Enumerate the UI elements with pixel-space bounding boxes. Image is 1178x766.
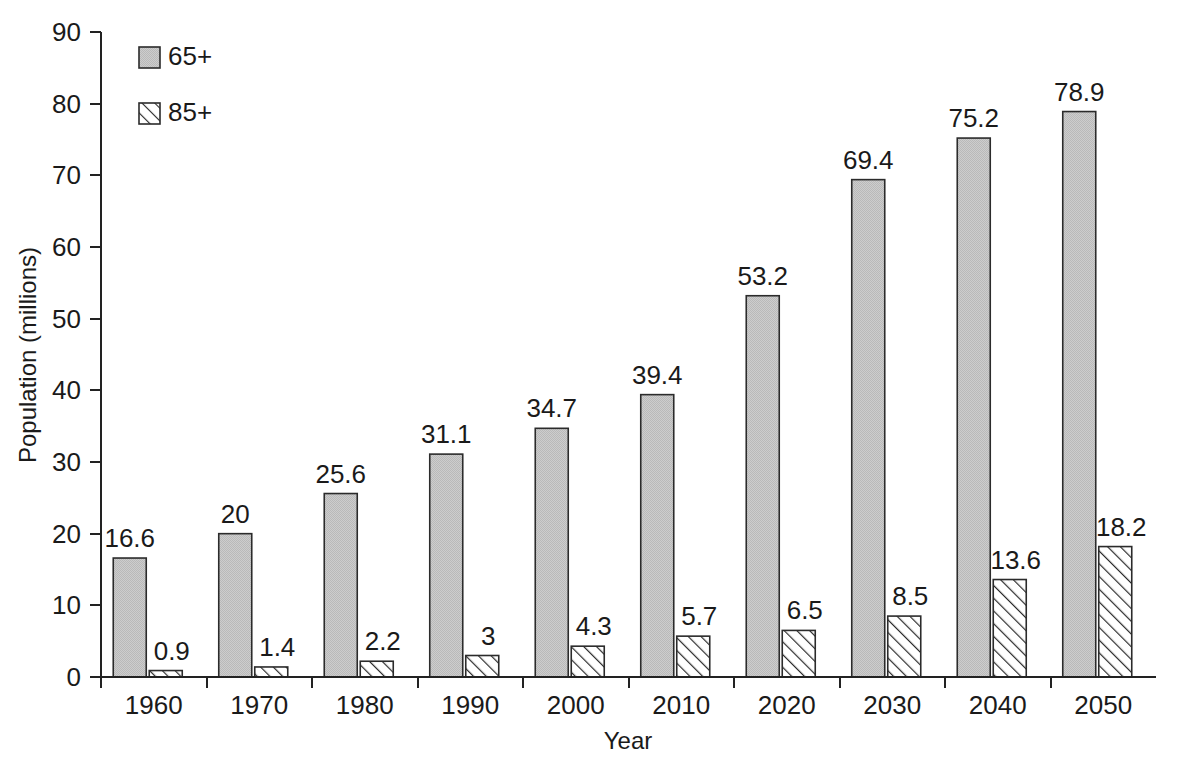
bar-65plus[interactable]	[957, 138, 990, 677]
bar-value-label-85plus: 13.6	[990, 545, 1041, 575]
bar-value-label-85plus: 5.7	[681, 601, 717, 631]
bar-value-label-85plus: 3	[481, 621, 495, 651]
chart-container: 16.60.9201.425.62.231.1334.74.339.45.753…	[0, 0, 1178, 766]
y-tick-label: 10	[52, 590, 81, 620]
bar-85plus[interactable]	[782, 630, 815, 677]
bar-value-label-65plus: 53.2	[737, 261, 788, 291]
bar-value-label-65plus: 20	[221, 499, 250, 529]
bar-65plus[interactable]	[1063, 112, 1096, 677]
bar-65plus[interactable]	[641, 395, 674, 677]
bar-value-label-85plus: 6.5	[787, 595, 823, 625]
bar-value-label-65plus: 78.9	[1054, 77, 1105, 107]
bar-65plus[interactable]	[430, 454, 463, 677]
bar-value-label-65plus: 69.4	[843, 145, 894, 175]
legend-swatch-solid-gray-icon	[139, 47, 160, 68]
bar-value-label-85plus: 18.2	[1096, 512, 1147, 542]
x-tick-label: 2010	[652, 690, 710, 720]
y-axis-title: Population (millions)	[14, 247, 41, 463]
bar-65plus[interactable]	[852, 180, 885, 677]
legend-swatch-diagonal-hatch-icon	[139, 103, 160, 124]
bar-value-label-65plus: 39.4	[632, 360, 683, 390]
y-tick-label: 0	[67, 662, 81, 692]
x-tick-label: 1960	[125, 690, 183, 720]
bar-85plus[interactable]	[888, 616, 921, 677]
x-tick-label: 1980	[336, 690, 394, 720]
x-tick-label: 2050	[1074, 690, 1132, 720]
bar-value-label-65plus: 25.6	[315, 459, 366, 489]
bar-value-label-65plus: 34.7	[526, 393, 577, 423]
x-tick-label: 2040	[969, 690, 1027, 720]
legend-label-65plus: 65+	[168, 41, 212, 71]
y-tick-label: 70	[52, 160, 81, 190]
bar-85plus[interactable]	[993, 580, 1026, 677]
y-tick-label: 60	[52, 232, 81, 262]
legend-label-85plus: 85+	[168, 97, 212, 127]
bar-85plus[interactable]	[360, 661, 393, 677]
x-tick-label: 2020	[758, 690, 816, 720]
x-tick-label: 2000	[547, 690, 605, 720]
bar-85plus[interactable]	[677, 636, 710, 677]
bar-value-label-85plus: 1.4	[259, 632, 295, 662]
bar-value-label-85plus: 8.5	[892, 581, 928, 611]
bar-85plus[interactable]	[255, 667, 288, 677]
bar-65plus[interactable]	[746, 296, 779, 677]
bar-85plus[interactable]	[571, 646, 604, 677]
bar-value-label-65plus: 31.1	[421, 419, 472, 449]
bar-85plus[interactable]	[1099, 547, 1132, 677]
bar-value-label-85plus: 4.3	[576, 611, 612, 641]
y-tick-label: 90	[52, 17, 81, 47]
x-tick-label: 1970	[230, 690, 288, 720]
x-axis-title: Year	[604, 727, 653, 754]
bar-65plus[interactable]	[324, 494, 357, 677]
bar-65plus[interactable]	[535, 428, 568, 677]
y-tick-label: 80	[52, 89, 81, 119]
bar-85plus[interactable]	[466, 656, 499, 678]
bar-value-label-85plus: 0.9	[154, 636, 190, 666]
bar-value-label-65plus: 16.6	[104, 523, 155, 553]
bar-65plus[interactable]	[113, 558, 146, 677]
bar-value-label-85plus: 2.2	[365, 626, 401, 656]
bar-chart: 16.60.9201.425.62.231.1334.74.339.45.753…	[0, 0, 1178, 766]
y-tick-label: 20	[52, 519, 81, 549]
y-tick-label: 40	[52, 375, 81, 405]
y-tick-label: 30	[52, 447, 81, 477]
bar-value-label-65plus: 75.2	[948, 103, 999, 133]
bar-65plus[interactable]	[219, 534, 252, 677]
x-tick-label: 2030	[863, 690, 921, 720]
x-tick-label: 1990	[441, 690, 499, 720]
y-tick-label: 50	[52, 304, 81, 334]
